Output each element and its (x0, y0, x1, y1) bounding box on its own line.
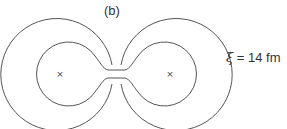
marker-right-x-icon: × (166, 69, 174, 79)
marker-left-x-icon: × (56, 69, 64, 79)
diagram-figure: × × (b) ξ = 14 fm (0, 0, 287, 129)
xi-value: 14 fm (248, 50, 281, 65)
equals-sign: = (233, 50, 248, 65)
correlation-length-label: ξ = 14 fm (226, 50, 281, 65)
outer-contour-right (121, 19, 232, 129)
panel-label: (b) (104, 3, 120, 18)
